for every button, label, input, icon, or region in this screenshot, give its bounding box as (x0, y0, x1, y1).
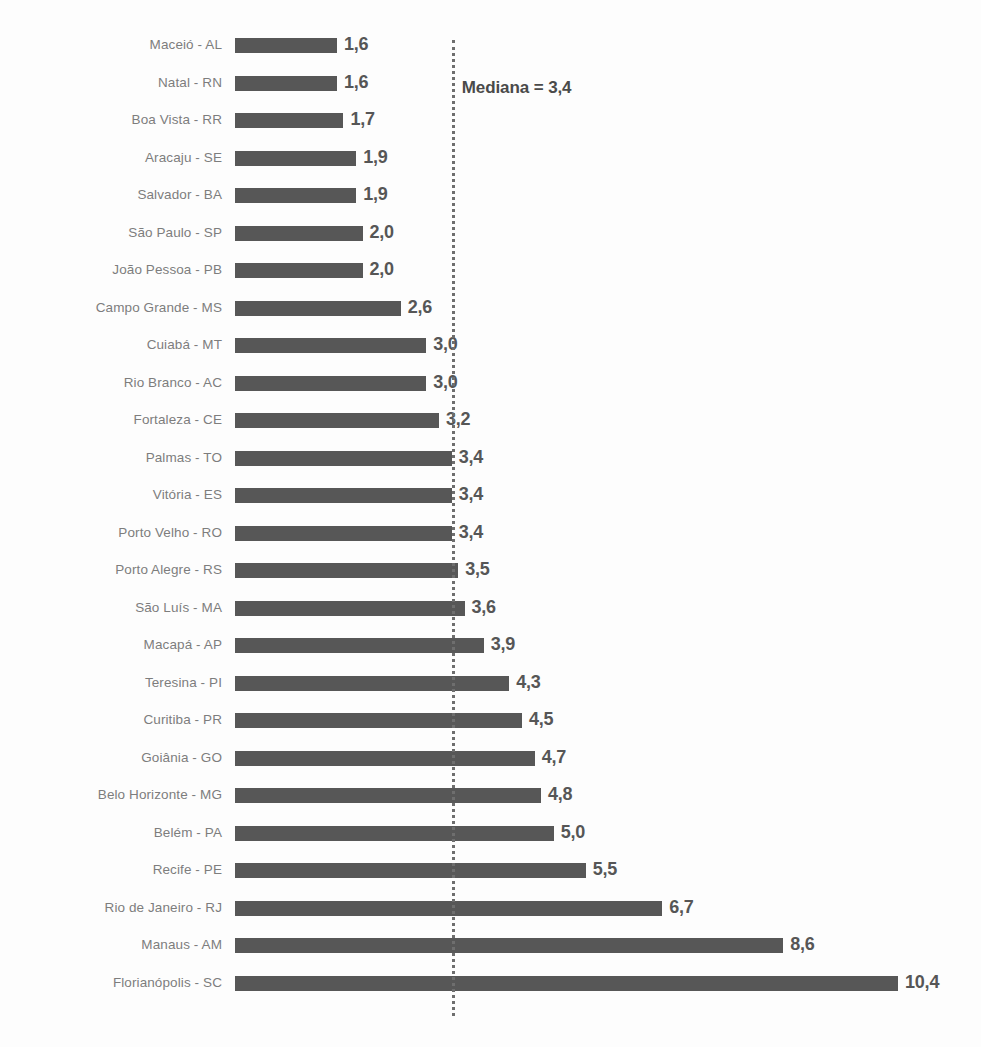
bar-row: Belém - PA5,0 (0, 826, 981, 841)
bar-row: Salvador - BA1,9 (0, 188, 981, 203)
bar (235, 638, 484, 653)
bar-row: São Luís - MA3,6 (0, 601, 981, 616)
value-label: 3,6 (472, 596, 496, 618)
value-label: 1,9 (363, 146, 387, 168)
category-label: Manaus - AM (141, 935, 222, 955)
bar-row: Florianópolis - SC10,4 (0, 976, 981, 991)
category-label: Porto Alegre - RS (115, 560, 222, 580)
category-label: Boa Vista - RR (132, 110, 222, 130)
bar (235, 938, 783, 953)
bar (235, 488, 452, 503)
value-label: 2,0 (370, 221, 394, 243)
value-label: 1,9 (363, 183, 387, 205)
category-label: Macapá - AP (144, 635, 222, 655)
bar (235, 676, 509, 691)
category-label: Maceió - AL (150, 35, 222, 55)
bar (235, 526, 452, 541)
category-label: Vitória - ES (153, 485, 222, 505)
value-label: 3,4 (459, 521, 483, 543)
bar-row: João Pessoa - PB2,0 (0, 263, 981, 278)
category-label: Aracaju - SE (145, 148, 222, 168)
bar-row: Teresina - PI4,3 (0, 676, 981, 691)
category-label: Florianópolis - SC (113, 973, 222, 993)
bar-row: Palmas - TO3,4 (0, 451, 981, 466)
value-label: 3,2 (446, 408, 470, 430)
value-label: 3,9 (491, 633, 515, 655)
category-label: São Luís - MA (135, 598, 222, 618)
bar-row: Rio Branco - AC3,0 (0, 376, 981, 391)
category-label: Campo Grande - MS (96, 298, 222, 318)
value-label: 6,7 (669, 896, 693, 918)
bar-row: Boa Vista - RR1,7 (0, 113, 981, 128)
category-label: Belo Horizonte - MG (98, 785, 222, 805)
value-label: 2,0 (370, 258, 394, 280)
bar-chart: Maceió - AL1,6Natal - RN1,6Boa Vista - R… (0, 0, 981, 1047)
category-label: Recife - PE (153, 860, 222, 880)
value-label: 4,8 (548, 783, 572, 805)
bar (235, 226, 363, 241)
bar (235, 113, 343, 128)
value-label: 1,6 (344, 71, 368, 93)
value-label: 5,0 (561, 821, 585, 843)
bar-row: Belo Horizonte - MG4,8 (0, 788, 981, 803)
bar-row: Campo Grande - MS2,6 (0, 301, 981, 316)
bar-row: Manaus - AM8,6 (0, 938, 981, 953)
bar (235, 788, 541, 803)
bar-row: Goiânia - GO4,7 (0, 751, 981, 766)
value-label: 3,4 (459, 446, 483, 468)
bar-row: Rio de Janeiro - RJ6,7 (0, 901, 981, 916)
category-label: Curitiba - PR (143, 710, 222, 730)
bar-row: São Paulo - SP2,0 (0, 226, 981, 241)
bar (235, 301, 401, 316)
bar (235, 901, 662, 916)
bar (235, 151, 356, 166)
value-label: 4,3 (516, 671, 540, 693)
bar (235, 76, 337, 91)
category-label: Palmas - TO (146, 448, 222, 468)
category-label: Natal - RN (158, 73, 222, 93)
value-label: 3,4 (459, 483, 483, 505)
bar-row: Fortaleza - CE3,2 (0, 413, 981, 428)
bar-row: Cuiabá - MT3,0 (0, 338, 981, 353)
value-label: 2,6 (408, 296, 432, 318)
bar-row: Aracaju - SE1,9 (0, 151, 981, 166)
category-label: Teresina - PI (145, 673, 222, 693)
bar (235, 413, 439, 428)
value-label: 1,6 (344, 33, 368, 55)
plot-area: Maceió - AL1,6Natal - RN1,6Boa Vista - R… (0, 0, 981, 1047)
bar-row: Maceió - AL1,6 (0, 38, 981, 53)
category-label: João Pessoa - PB (112, 260, 222, 280)
category-label: São Paulo - SP (128, 223, 222, 243)
category-label: Goiânia - GO (141, 748, 222, 768)
bar (235, 451, 452, 466)
bar-row: Recife - PE5,5 (0, 863, 981, 878)
value-label: 4,5 (529, 708, 553, 730)
bar-row: Vitória - ES3,4 (0, 488, 981, 503)
bar (235, 751, 535, 766)
bar (235, 713, 522, 728)
value-label: 5,5 (593, 858, 617, 880)
value-label: 10,4 (905, 971, 939, 993)
bar (235, 601, 465, 616)
bar (235, 38, 337, 53)
bar (235, 188, 356, 203)
bar (235, 976, 898, 991)
bar (235, 263, 363, 278)
value-label: 3,5 (465, 558, 489, 580)
bar-row: Macapá - AP3,9 (0, 638, 981, 653)
category-label: Porto Velho - RO (118, 523, 222, 543)
category-label: Fortaleza - CE (134, 410, 222, 430)
category-label: Rio Branco - AC (124, 373, 222, 393)
bar (235, 338, 426, 353)
value-label: 4,7 (542, 746, 566, 768)
bar (235, 826, 554, 841)
bar-row: Porto Velho - RO3,4 (0, 526, 981, 541)
bar-row: Curitiba - PR4,5 (0, 713, 981, 728)
category-label: Salvador - BA (137, 185, 222, 205)
bar-row: Porto Alegre - RS3,5 (0, 563, 981, 578)
bar (235, 863, 586, 878)
median-reference-line (452, 40, 455, 1016)
category-label: Rio de Janeiro - RJ (105, 898, 222, 918)
category-label: Belém - PA (154, 823, 222, 843)
median-annotation-label: Mediana = 3,4 (462, 78, 572, 98)
